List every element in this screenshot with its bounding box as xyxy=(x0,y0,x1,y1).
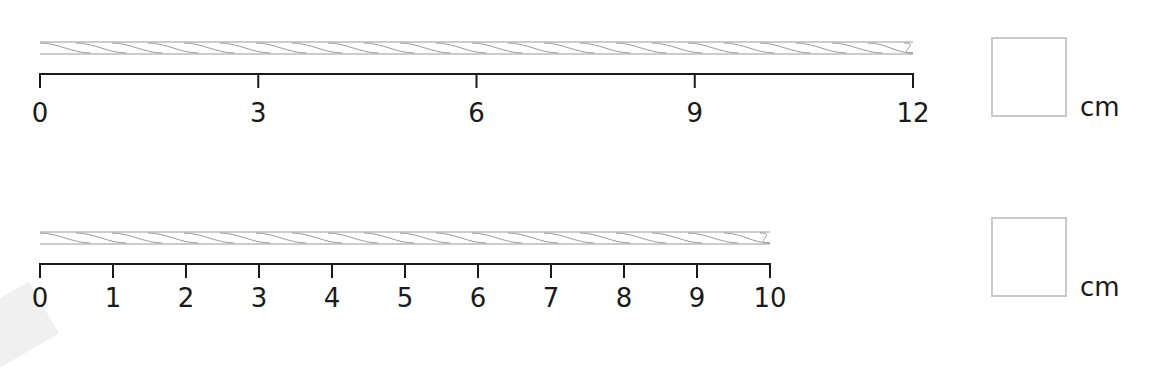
unit-label-2: cm xyxy=(1080,272,1120,302)
tick-label: 12 xyxy=(896,100,929,126)
tick-label: 2 xyxy=(178,285,195,311)
tick-label: 3 xyxy=(250,100,267,126)
answer-box-2[interactable] xyxy=(991,217,1067,297)
ruler-2 xyxy=(40,263,770,278)
tick-label: 4 xyxy=(324,285,341,311)
ruler-1 xyxy=(40,73,913,88)
tick-label: 9 xyxy=(689,285,706,311)
tick-label: 0 xyxy=(32,100,49,126)
tick-label: 8 xyxy=(616,285,633,311)
tick-label: 0 xyxy=(32,285,49,311)
tick-label: 3 xyxy=(251,285,268,311)
tick-label: 10 xyxy=(753,285,786,311)
tick-label: 7 xyxy=(543,285,560,311)
answer-box-1[interactable] xyxy=(991,37,1067,117)
tick-label: 6 xyxy=(470,285,487,311)
tick-label: 1 xyxy=(105,285,122,311)
unit-label-1: cm xyxy=(1080,92,1120,122)
rope-1 xyxy=(40,42,913,54)
tick-label: 9 xyxy=(686,100,703,126)
rope-2 xyxy=(40,232,770,244)
tick-label: 5 xyxy=(397,285,414,311)
tick-label: 6 xyxy=(468,100,485,126)
